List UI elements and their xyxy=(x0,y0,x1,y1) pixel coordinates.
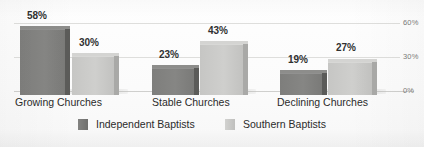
bar-front-face xyxy=(20,29,65,95)
bar-front-face xyxy=(328,62,372,95)
legend-entry-independent-baptists[interactable]: Independent Baptists xyxy=(78,116,195,132)
gridline-60 xyxy=(14,23,400,24)
bar-stable-independent[interactable] xyxy=(152,68,199,95)
category-label-growing: Growing Churches xyxy=(15,96,102,108)
bar-declining-southern[interactable] xyxy=(328,62,377,95)
bar-stable-southern[interactable] xyxy=(200,44,248,95)
bar-front-face xyxy=(72,56,114,95)
value-label-growing-independent: 58% xyxy=(27,10,47,21)
value-label-stable-southern: 43% xyxy=(208,25,228,36)
value-label-declining-southern: 27% xyxy=(336,42,356,53)
bar-chart: 60% 30% 0% 58% 30% 23% xyxy=(0,0,424,147)
bar-side-face xyxy=(114,56,119,95)
bar-side-face xyxy=(322,73,327,95)
chart-legend: Independent Baptists Southern Baptists xyxy=(0,116,424,138)
bar-front-face xyxy=(152,68,194,95)
legend-label-southern-baptists: Southern Baptists xyxy=(243,118,326,130)
value-label-growing-southern: 30% xyxy=(79,37,99,48)
bar-growing-independent[interactable] xyxy=(20,29,70,95)
category-label-declining: Declining Churches xyxy=(277,96,368,108)
value-label-stable-independent: 23% xyxy=(159,49,179,60)
y-tick-label-0: 0% xyxy=(403,86,414,95)
legend-entry-southern-baptists[interactable]: Southern Baptists xyxy=(225,116,326,132)
bar-side-face xyxy=(372,62,377,95)
legend-swatch-icon xyxy=(225,119,235,130)
value-label-declining-independent: 19% xyxy=(288,54,308,65)
bar-front-face xyxy=(200,44,243,95)
bar-side-face xyxy=(194,68,199,95)
y-tick-label-30: 30% xyxy=(403,52,419,61)
y-tick-label-60: 60% xyxy=(403,18,419,27)
bar-side-face xyxy=(65,29,70,95)
bar-declining-independent[interactable] xyxy=(280,73,327,95)
legend-label-independent-baptists: Independent Baptists xyxy=(96,118,195,130)
bar-front-face xyxy=(280,73,322,95)
category-label-stable: Stable Churches xyxy=(152,96,230,108)
legend-swatch-icon xyxy=(78,119,88,130)
plot-area: 60% 30% 0% 58% 30% 23% xyxy=(0,0,424,95)
bar-growing-southern[interactable] xyxy=(72,56,119,95)
bar-side-face xyxy=(243,44,248,95)
